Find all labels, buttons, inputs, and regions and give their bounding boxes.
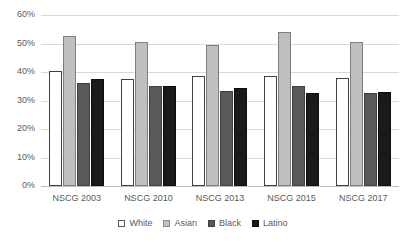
bar-white-nscg-2003	[49, 71, 62, 186]
bar-black-nscg-2010	[149, 86, 162, 186]
legend-item-asian[interactable]: Asian	[163, 219, 197, 228]
y-tick-label: 30%	[3, 96, 35, 105]
y-tick-label: 40%	[3, 67, 35, 76]
bar-asian-nscg-2003	[63, 36, 76, 186]
bar-white-nscg-2015	[264, 76, 277, 186]
bar-group	[327, 15, 399, 186]
y-tick-label: 50%	[3, 39, 35, 48]
legend-label: White	[129, 219, 152, 228]
bar-latino-nscg-2010	[163, 86, 176, 186]
x-axis-label: NSCG 2010	[113, 193, 185, 203]
bar-asian-nscg-2017	[350, 42, 363, 186]
legend-swatch-icon	[208, 220, 215, 227]
y-tick-label: 10%	[3, 153, 35, 162]
bar-group	[184, 15, 256, 186]
bar-group	[41, 15, 113, 186]
bar-latino-nscg-2013	[234, 88, 247, 186]
bar-chart: 0%10%20%30%40%50%60% NSCG 2003NSCG 2010N…	[0, 0, 406, 242]
bar-groups	[41, 15, 399, 186]
bar-latino-nscg-2003	[91, 79, 104, 186]
bar-asian-nscg-2013	[206, 45, 219, 186]
legend-label: Asian	[174, 219, 197, 228]
legend-swatch-icon	[252, 220, 259, 227]
legend-item-black[interactable]: Black	[208, 219, 241, 228]
y-tick-label: 0%	[3, 181, 35, 190]
y-tick-label: 60%	[3, 10, 35, 19]
bar-black-nscg-2017	[364, 93, 377, 186]
bar-asian-nscg-2015	[278, 32, 291, 186]
legend-item-latino[interactable]: Latino	[252, 219, 288, 228]
bar-white-nscg-2017	[336, 78, 349, 186]
x-axis-label: NSCG 2015	[256, 193, 328, 203]
y-tick-label: 20%	[3, 124, 35, 133]
x-axis-label: NSCG 2017	[327, 193, 399, 203]
legend-label: Black	[219, 219, 241, 228]
legend-item-white[interactable]: White	[118, 219, 152, 228]
gridline	[41, 186, 399, 187]
bar-black-nscg-2015	[292, 86, 305, 186]
x-axis-label: NSCG 2003	[41, 193, 113, 203]
x-axis-labels: NSCG 2003NSCG 2010NSCG 2013NSCG 2015NSCG…	[41, 193, 399, 203]
legend-swatch-icon	[118, 220, 125, 227]
bar-black-nscg-2013	[220, 91, 233, 186]
bar-group	[113, 15, 185, 186]
bar-white-nscg-2010	[121, 79, 134, 186]
legend-swatch-icon	[163, 220, 170, 227]
bar-latino-nscg-2015	[306, 93, 319, 186]
x-axis-label: NSCG 2013	[184, 193, 256, 203]
chart-legend: WhiteAsianBlackLatino	[0, 219, 406, 228]
legend-label: Latino	[263, 219, 288, 228]
bar-black-nscg-2003	[77, 83, 90, 186]
bar-latino-nscg-2017	[378, 92, 391, 186]
bar-group	[256, 15, 328, 186]
bar-white-nscg-2013	[192, 76, 205, 186]
bar-asian-nscg-2010	[135, 42, 148, 186]
